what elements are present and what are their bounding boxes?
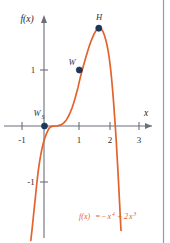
x-tick-label-2: 2 <box>108 135 113 145</box>
formula-term2-coefficient: 2 <box>124 212 128 221</box>
point-marker-w <box>76 67 82 73</box>
formula-term1-sign: − <box>101 212 106 221</box>
x-tick-label-3: 3 <box>137 135 142 145</box>
point-marker-ws <box>41 123 47 129</box>
x-tick-label-1: 1 <box>77 135 82 145</box>
formula-annotation: f(x) = − x 4 + 2 x 3 <box>79 211 137 222</box>
formula-term1-exponent: 4 <box>112 211 115 217</box>
x-axis-arrow-icon <box>145 123 152 129</box>
formula-lhs: f(x) <box>79 212 90 221</box>
formula-term2-base: x <box>128 212 133 221</box>
point-marker-h <box>96 25 102 31</box>
point-label-ws-subscript: S <box>42 114 45 120</box>
x-axis-label: x <box>143 108 149 118</box>
y-axis-label: f(x) <box>20 14 33 25</box>
point-label-w: W <box>68 57 76 67</box>
point-label-ws: W <box>33 108 41 118</box>
point-label-h: H <box>95 12 103 22</box>
x-tick-label--1: -1 <box>18 135 26 145</box>
y-tick-label--1: -1 <box>27 177 35 187</box>
y-axis-arrow-icon <box>41 15 47 23</box>
formula-term1-base: x <box>107 212 112 221</box>
y-tick-label-1: 1 <box>31 65 36 75</box>
function-plot: -1 1 2 3 1 -1 f(x) x W S W H f(x) = − x … <box>0 0 170 243</box>
formula-equals: = <box>95 212 100 221</box>
formula-term2-exponent: 3 <box>133 211 137 217</box>
figure-container: -1 1 2 3 1 -1 f(x) x W S W H f(x) = − x … <box>0 0 170 243</box>
formula-term2-sign: + <box>117 212 122 221</box>
